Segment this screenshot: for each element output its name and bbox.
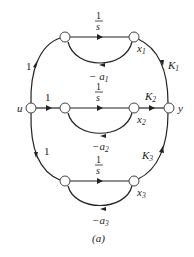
bot-integrator-num: 1 [96, 154, 101, 165]
node-bot-left [60, 176, 70, 186]
label-u: u [17, 102, 23, 114]
node-x1 [129, 32, 139, 42]
label-u-to-top: 1 [26, 60, 32, 72]
arrow-icon [100, 134, 106, 138]
arrow-icon [149, 105, 155, 111]
label-x1: x1 [136, 42, 146, 56]
arrow-icon [97, 105, 103, 111]
label-gain-1: K1 [167, 59, 179, 73]
arrow-icon [97, 178, 103, 184]
caption: (a) [92, 232, 105, 245]
label-x2: x2 [136, 113, 146, 127]
arrow-icon [99, 63, 105, 67]
arrow-icon [100, 207, 106, 211]
edge-feedback-3 [68, 186, 132, 206]
bot-integrator-den: s [96, 165, 100, 176]
label-gain-3: K3 [141, 149, 153, 163]
node-x2 [129, 103, 139, 113]
arrow-icon [97, 34, 103, 40]
node-mid-left [60, 103, 70, 113]
label-gain-2: K2 [144, 90, 156, 104]
node-y [164, 103, 174, 113]
edge-feedback-2 [68, 113, 132, 133]
node-x3 [129, 176, 139, 186]
signal-flow-graph: 1 s 1 s 1 s x1 x2 x3 u y 1 1 1 − a1 −a2 … [0, 0, 194, 257]
node-u [26, 103, 36, 113]
top-integrator-num: 1 [96, 10, 101, 21]
label-u-to-mid: 1 [45, 91, 51, 103]
label-feedback-2: −a2 [92, 140, 109, 154]
arrow-icon [33, 61, 37, 68]
label-u-to-bot: 1 [44, 145, 50, 157]
arrow-icon [46, 105, 52, 111]
edge-feedback-1 [68, 42, 132, 63]
label-feedback-3: −a3 [92, 214, 109, 228]
label-feedback-1: − a1 [89, 70, 108, 84]
node-top-left [60, 32, 70, 42]
mid-integrator-num: 1 [96, 81, 101, 92]
mid-integrator-den: s [96, 92, 100, 103]
label-x3: x3 [136, 186, 146, 200]
label-y: y [177, 102, 183, 114]
top-integrator-den: s [96, 21, 100, 32]
